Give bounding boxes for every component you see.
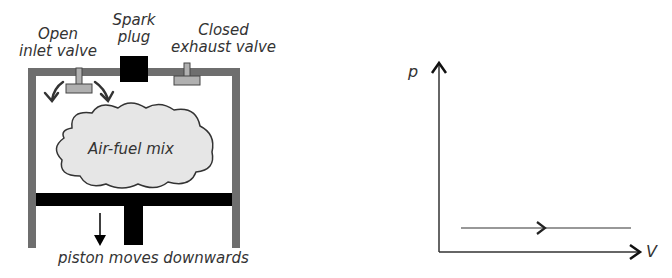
down-arrow-icon [94,213,106,246]
spark-plug-label: Spark plug [104,12,164,46]
inlet-label-line1: Open [8,26,108,43]
spark-label-line2: plug [104,29,164,46]
exhaust-valve-label: Closed exhaust valve [166,22,281,56]
piston-head [36,193,232,206]
exhaust-label-line2: exhaust valve [166,39,281,56]
piston-rod [124,206,143,245]
inlet-valve-label: Open inlet valve [8,26,108,60]
inlet-label-line2: inlet valve [8,43,108,60]
p-axis-label: p [408,62,418,81]
piston [36,193,232,245]
piston-motion-label: piston moves downwards [58,250,249,267]
air-fuel-mix-label: Air-fuel mix [88,140,174,158]
cylinder-right-wall [232,68,240,248]
spark-plug [120,56,148,82]
exhaust-label-line1: Closed [166,22,281,39]
v-axis-label: V [646,242,657,261]
pv-diagram [432,63,640,259]
spark-label-line1: Spark [104,12,164,29]
cylinder-left-wall [28,68,36,248]
